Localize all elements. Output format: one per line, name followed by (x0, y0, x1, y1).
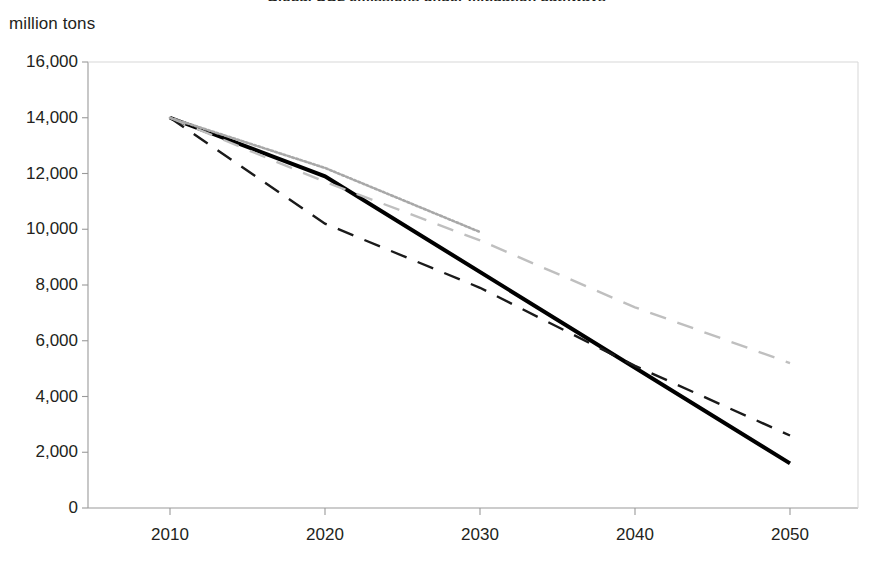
x-tick-label: 2030 (461, 526, 499, 543)
y-tick-label: 12,000 (26, 165, 78, 182)
x-tick-label: 2050 (771, 526, 809, 543)
series-lines (170, 118, 790, 464)
y-tick-label: 10,000 (26, 220, 78, 237)
y-tick-label: 14,000 (26, 109, 78, 126)
plot-area (0, 0, 873, 565)
x-tick-label: 2010 (151, 526, 189, 543)
x-tick-label: 2020 (306, 526, 344, 543)
series-line-dark-dashed-scenario (170, 118, 790, 436)
y-tick-label: 0 (69, 499, 78, 516)
y-tick-label: 8,000 (35, 276, 78, 293)
y-tick-label: 4,000 (35, 388, 78, 405)
axis-ticks (82, 62, 790, 515)
chart-container: Global CO2 emissions under mitigation pa… (0, 0, 873, 565)
series-line-solid-black-scenario (170, 118, 790, 464)
y-tick-label: 16,000 (26, 53, 78, 70)
x-tick-label: 2040 (616, 526, 654, 543)
y-tick-label: 2,000 (35, 443, 78, 460)
y-tick-label: 6,000 (35, 332, 78, 349)
